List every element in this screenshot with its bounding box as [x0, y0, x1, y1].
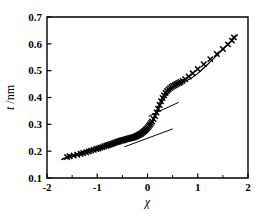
scatter-plot-svg: 0.10.20.30.40.50.60.7 -2-1012 t /nm χ: [0, 0, 267, 216]
y-tick-label-0: 0.1: [28, 172, 42, 184]
x-tick-label-4: 2: [245, 181, 251, 193]
x-tick-label-0: -2: [42, 181, 52, 193]
y-tick-label-2: 0.3: [28, 118, 42, 130]
x-tick-label-2: 0: [145, 181, 151, 193]
y-tick-label-1: 0.2: [28, 145, 42, 157]
x-tick-label-1: -1: [93, 181, 102, 193]
x-axis-title-text: χ: [144, 195, 151, 209]
x-tick-label-3: 1: [195, 181, 201, 193]
y-axis-title-text: t /nm: [3, 84, 17, 110]
x-axis-title: χ: [144, 195, 151, 209]
y-axis-unit: /nm: [3, 84, 17, 106]
y-axis-title: t /nm: [3, 84, 17, 110]
y-tick-label-3: 0.4: [28, 91, 42, 103]
chart-figure: 0.10.20.30.40.50.60.7 -2-1012 t /nm χ: [0, 0, 267, 216]
y-tick-label-4: 0.5: [28, 64, 42, 76]
y-tick-label-5: 0.6: [28, 38, 42, 50]
y-tick-label-6: 0.7: [28, 11, 42, 23]
